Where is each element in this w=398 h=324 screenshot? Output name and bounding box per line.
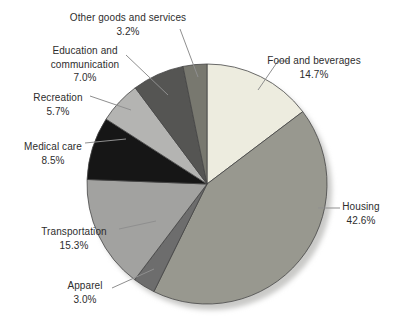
pie-chart: Food and beverages14.7%Housing42.6%Appar… <box>0 0 398 324</box>
slice-label-other: Other goods and services3.2% <box>70 12 186 37</box>
pie-slices <box>87 64 327 304</box>
slice-percent-text: 5.7% <box>46 106 69 117</box>
slice-percent-text: 15.3% <box>60 240 89 251</box>
slice-label-housing: Housing42.6% <box>342 201 379 226</box>
slice-percent-text: 42.6% <box>347 215 376 226</box>
slice-label-apparel: Apparel3.0% <box>67 280 102 305</box>
slice-label-medical: Medical care8.5% <box>24 141 82 166</box>
slice-name-text: Housing <box>342 201 379 212</box>
slice-label-recreation: Recreation5.7% <box>33 92 82 117</box>
slice-name-text: Apparel <box>67 280 102 291</box>
slice-percent-text: 3.2% <box>116 26 139 37</box>
slice-percent-text: 7.0% <box>73 72 96 83</box>
slice-percent-text: 3.0% <box>73 294 96 305</box>
slice-name-text: Food and beverages <box>267 55 361 66</box>
slice-name-text: Other goods and services <box>70 12 186 23</box>
slice-name-text: communication <box>51 59 120 70</box>
slice-name-text: Medical care <box>24 141 82 152</box>
slice-percent-text: 14.7% <box>300 69 329 80</box>
slice-label-food: Food and beverages14.7% <box>267 55 361 80</box>
slice-label-education: Education andcommunication7.0% <box>51 45 120 83</box>
slice-label-transportation: Transportation15.3% <box>41 226 107 251</box>
slice-name-text: Transportation <box>41 226 107 237</box>
slice-name-text: Education and <box>52 45 117 56</box>
pie-chart-figure: Food and beverages14.7%Housing42.6%Appar… <box>0 0 398 324</box>
slice-percent-text: 8.5% <box>41 155 64 166</box>
slice-name-text: Recreation <box>33 92 82 103</box>
